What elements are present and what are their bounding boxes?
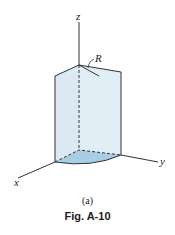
- left-face: [55, 65, 79, 162]
- x-axis: [18, 162, 55, 178]
- figure-caption: Fig. A-10: [0, 210, 175, 222]
- z-axis-label: z: [76, 10, 80, 22]
- right-face: [79, 65, 121, 155]
- radius-label: R: [95, 52, 102, 64]
- subcaption: (a): [0, 195, 175, 206]
- y-axis-label: y: [160, 155, 165, 167]
- x-axis-label: x: [14, 176, 19, 188]
- y-axis: [121, 155, 158, 162]
